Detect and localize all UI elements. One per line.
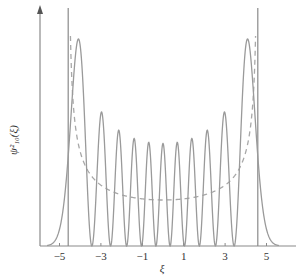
x-tick-label: −3 — [95, 250, 107, 262]
x-axis-label: ξ — [160, 262, 165, 275]
y-axis-arrow-icon — [37, 5, 43, 14]
x-tick-label: 3 — [222, 250, 228, 262]
x-tick-label: −5 — [54, 250, 66, 262]
y-axis-label: ψ²₁₀(ξ) — [7, 125, 20, 155]
x-tick-label: −1 — [136, 250, 148, 262]
chart: −5−3−1135 ξ ψ²₁₀(ξ) — [0, 0, 299, 280]
quantum-probability-curve — [47, 39, 279, 246]
axes — [37, 5, 296, 246]
plot-area: −5−3−1135 ξ ψ²₁₀(ξ) — [0, 0, 299, 280]
x-tick-label: 5 — [264, 250, 270, 262]
classical-turning-point-lines — [68, 8, 258, 246]
classical-probability-curve — [70, 36, 255, 200]
x-tick-label: 1 — [181, 250, 187, 262]
